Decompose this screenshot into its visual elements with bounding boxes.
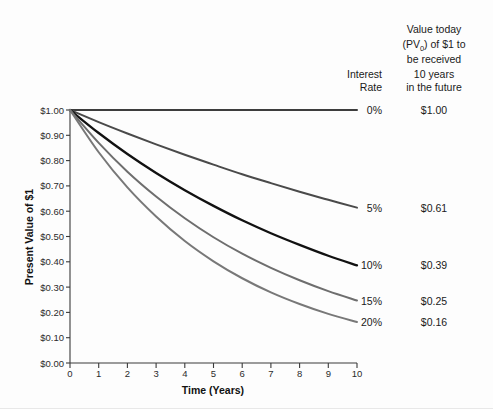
x-axis-title: Time (Years) (182, 384, 244, 396)
curve-10pct (70, 110, 357, 265)
present-value-line-chart: $0.00$0.10$0.20$0.30$0.40$0.50$0.60$0.70… (0, 0, 493, 409)
legend-header-value-line2: (PV0) of $1 to (402, 38, 465, 53)
legend-value-pv-suffix: ) of $1 to (424, 38, 466, 50)
x-tick-label: 1 (96, 368, 101, 379)
legend-value-pv-text: (PV (402, 38, 420, 50)
y-tick-label: $0.30 (40, 282, 64, 293)
legend-rate-5pct: 5% (367, 202, 382, 214)
legend-rate-10pct: 10% (361, 259, 382, 271)
y-tick-label: $0.50 (40, 231, 64, 242)
y-tick-label: $0.90 (40, 130, 64, 141)
legend-header-value-line3: be received (407, 53, 461, 65)
x-tick-label: 9 (326, 368, 331, 379)
y-tick-label: $0.20 (40, 307, 64, 318)
y-tick-label: $0.80 (40, 155, 64, 166)
data-curves (70, 110, 357, 322)
x-tick-label: 3 (153, 368, 158, 379)
curve-20pct (70, 110, 357, 322)
x-tick-label: 10 (352, 368, 363, 379)
legend-value-0pct: $1.00 (421, 104, 447, 116)
legend-header-interest-line1: Interest (347, 68, 382, 80)
legend-header-interest-line2: Rate (360, 81, 382, 93)
x-tick-label: 0 (67, 368, 72, 379)
x-tick-label: 2 (125, 368, 130, 379)
legend-rate-20pct: 20% (361, 316, 382, 328)
y-tick-label: $1.00 (40, 105, 64, 116)
y-tick-label: $0.00 (40, 358, 64, 369)
legend-value-20pct: $0.16 (421, 316, 447, 328)
x-tick-label: 6 (240, 368, 245, 379)
y-axis-title: Present Value of $1 (23, 189, 35, 285)
legend-value-5pct: $0.61 (421, 202, 447, 214)
x-tick-label: 4 (182, 368, 187, 379)
legend-value-15pct: $0.25 (421, 295, 447, 307)
x-tick-label: 8 (297, 368, 302, 379)
y-tick-label: $0.60 (40, 206, 64, 217)
y-axis-tick-labels: $0.00$0.10$0.20$0.30$0.40$0.50$0.60$0.70… (40, 105, 64, 369)
axis-tick-marks (66, 110, 357, 368)
y-tick-label: $0.40 (40, 256, 64, 267)
legend-rate-15pct: 15% (361, 295, 382, 307)
legend-header-value-line5: in the future (406, 81, 462, 93)
x-tick-label: 5 (211, 368, 216, 379)
legend-rate-0pct: 0% (367, 104, 382, 116)
x-axis-tick-labels: 012345678910 (67, 368, 362, 379)
legend-header-value-line1: Value today (407, 23, 462, 35)
legend-header-value-line4: 10 years (414, 68, 454, 80)
x-tick-label: 7 (268, 368, 273, 379)
legend-value-10pct: $0.39 (421, 259, 447, 271)
legend-rows: 0%$1.005%$0.6110%$0.3915%$0.2520%$0.16 (361, 104, 447, 328)
y-tick-label: $0.70 (40, 180, 64, 191)
chart-figure: $0.00$0.10$0.20$0.30$0.40$0.50$0.60$0.70… (0, 0, 493, 409)
y-tick-label: $0.10 (40, 332, 64, 343)
